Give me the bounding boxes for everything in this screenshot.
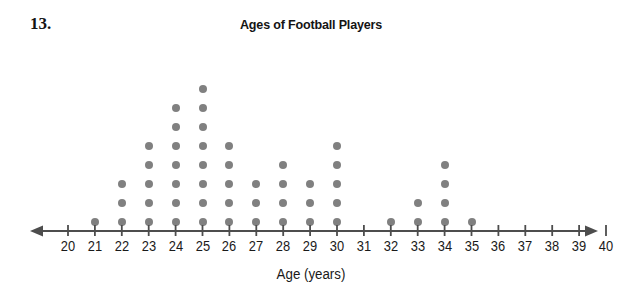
data-dot [145,142,153,150]
x-tick-label: 37 [511,238,539,254]
data-dot [279,180,287,188]
x-tick-label: 40 [592,238,620,254]
x-tick-label: 25 [189,238,217,254]
data-dot [387,218,395,226]
x-tick-label: 29 [296,238,324,254]
x-tick-label: 22 [108,238,136,254]
data-dot [225,142,233,150]
data-dot [199,104,207,112]
data-dot [145,199,153,207]
x-tick-label: 21 [81,238,109,254]
data-dot [306,218,314,226]
data-dot [225,218,233,226]
data-dot [225,161,233,169]
data-dot [172,104,180,112]
data-dot [145,218,153,226]
plot-area [0,0,622,306]
data-dot [172,199,180,207]
x-tick-label: 39 [565,238,593,254]
x-axis-title: Age (years) [16,266,607,282]
x-tick-label: 36 [485,238,513,254]
data-dot [468,218,476,226]
data-dot [118,199,126,207]
data-dot [333,199,341,207]
x-tick-label: 26 [216,238,244,254]
data-dot [441,180,449,188]
x-tick-label: 20 [54,238,82,254]
data-dot [172,123,180,131]
data-dot [333,161,341,169]
x-tick-label: 30 [323,238,351,254]
x-tick-label: 24 [162,238,190,254]
data-dot [199,218,207,226]
data-dot [199,199,207,207]
data-dot [333,180,341,188]
data-dot [145,180,153,188]
data-dot [306,180,314,188]
data-dot [252,180,260,188]
data-dot [172,180,180,188]
x-tick-label: 35 [458,238,486,254]
x-tick-label: 33 [404,238,432,254]
data-dot [172,161,180,169]
data-dot [172,142,180,150]
dot-plot-figure: 13. Ages of Football Players 20212223242… [0,0,622,306]
data-dot [145,161,153,169]
data-dot [333,142,341,150]
x-tick-label: 34 [431,238,459,254]
data-dot [252,218,260,226]
data-dot [414,218,422,226]
data-dot [199,161,207,169]
data-dot [91,218,99,226]
data-dot [441,218,449,226]
x-tick-label: 38 [538,238,566,254]
data-dot [441,161,449,169]
data-dot [279,161,287,169]
x-tick-label: 23 [135,238,163,254]
x-tick-label: 31 [350,238,378,254]
data-dot [118,218,126,226]
data-dot [118,180,126,188]
data-dot [306,199,314,207]
x-tick-label: 27 [242,238,270,254]
data-dot [441,199,449,207]
data-dot [279,199,287,207]
data-dot [252,199,260,207]
data-dot [225,199,233,207]
data-dot [199,180,207,188]
x-tick-label: 28 [269,238,297,254]
data-dot [199,85,207,93]
x-tick-label: 32 [377,238,405,254]
data-dot [199,142,207,150]
data-dot [172,218,180,226]
data-dot [225,180,233,188]
data-dot [279,218,287,226]
data-dot [199,123,207,131]
data-dot [333,218,341,226]
data-dot [414,199,422,207]
